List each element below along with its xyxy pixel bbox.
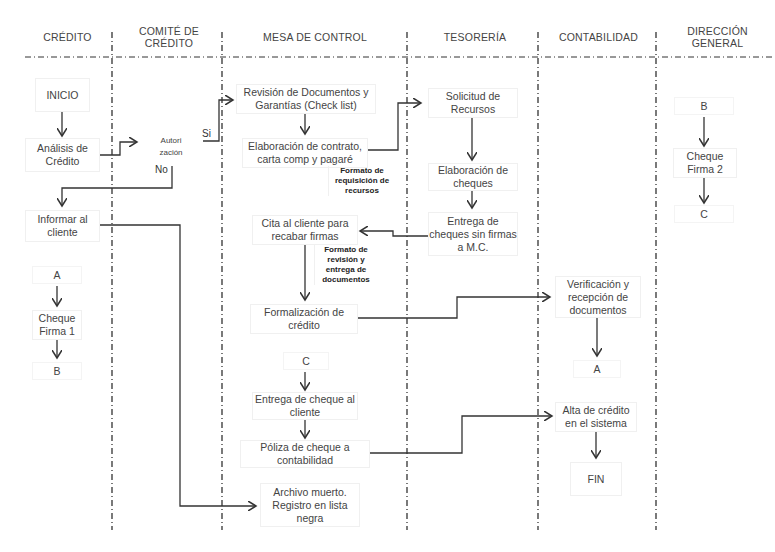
flow-lines <box>0 0 775 552</box>
note-formato-revision: Formato de revisión y entrega de documen… <box>314 245 377 285</box>
node-analisis-credito: Análisis de Crédito <box>25 138 100 172</box>
connector-a-contab: A <box>573 360 621 378</box>
node-formalizacion: Formalización de crédito <box>250 304 358 334</box>
node-revision-documentos: Revisión de Documentos y Garantías (Chec… <box>236 84 376 114</box>
node-informar-cliente: Informar al cliente <box>25 210 100 242</box>
node-elaboracion-cheques: Elaboración de cheques <box>428 163 518 191</box>
note-formato-requisicion: Formato de requisición de recursos <box>328 166 395 196</box>
node-alta-credito: Alta de crédito en el sistema <box>555 402 637 432</box>
decision-label-no: No <box>155 164 168 175</box>
decision-label-si: Si <box>202 128 211 139</box>
node-fin: FIN <box>570 462 622 496</box>
node-inicio: INICIO <box>35 78 90 112</box>
connector-b-direccion: B <box>674 97 734 115</box>
node-cheque-firma-1: Cheque Firma 1 <box>32 310 82 340</box>
connector-c-direccion: C <box>674 205 734 223</box>
connector-a-credito: A <box>32 266 82 284</box>
decision-autorizacion: Autori zación <box>150 132 192 162</box>
node-entrega-cheques-sin-firmas: Entrega de cheques sin firmas a M.C. <box>428 212 518 256</box>
node-entrega-cheque-cliente: Entrega de cheque al cliente <box>252 392 358 420</box>
lane-title-contabilidad: CONTABILIDAD <box>546 31 651 43</box>
node-archivo-muerto: Archivo muerto. Registro en lista negra <box>260 483 360 527</box>
lane-title-mesa: MESA DE CONTROL <box>240 31 390 43</box>
node-elaboracion-contrato: Elaboración de contrato, carta comp y pa… <box>242 138 368 168</box>
connector-c-mesa: C <box>283 352 329 370</box>
lane-title-credito: CRÉDITO <box>25 31 110 43</box>
node-poliza-contabilidad: Póliza de cheque a contabilidad <box>240 440 370 468</box>
connector-b-credito: B <box>32 362 82 380</box>
node-verificacion: Verificación y recepción de documentos <box>555 276 641 318</box>
lane-title-tesoreria: TESORERÍA <box>420 31 530 43</box>
node-solicitud-recursos: Solicitud de Recursos <box>428 88 518 118</box>
node-cheque-firma-2: Cheque Firma 2 <box>673 148 737 178</box>
lane-title-comite: COMITÉ DE CRÉDITO <box>124 25 214 49</box>
lane-title-direccion: DIRECCIÓN GENERAL <box>670 25 765 49</box>
node-cita-cliente: Cita al cliente para recabar firmas <box>252 215 358 245</box>
